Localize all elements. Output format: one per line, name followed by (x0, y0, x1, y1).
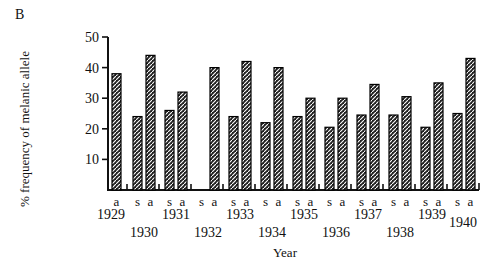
year-label-1930: 1930 (130, 225, 158, 240)
bar-category-label: a (404, 194, 410, 209)
bar-category-label: s (263, 194, 268, 209)
y-tick-label: 50 (85, 30, 99, 45)
bar-1932-a (210, 68, 219, 190)
bar-1931-a (178, 92, 187, 190)
bar-category-label: s (391, 194, 396, 209)
year-label-1935: 1935 (290, 207, 318, 222)
y-tick-label: 10 (85, 152, 99, 167)
bar-category-label: a (468, 194, 474, 209)
bar-category-label: a (212, 194, 218, 209)
bar-1935-a (306, 98, 315, 190)
year-labels: 1929193019311932193319341935193619371938… (97, 207, 477, 240)
bar-1935-s (293, 117, 302, 190)
x-axis-title: Year (273, 245, 298, 260)
year-label-1939: 1939 (418, 207, 446, 222)
bar-1929-a (112, 74, 121, 190)
bar-category-label: a (148, 194, 154, 209)
y-tick-label: 40 (85, 61, 99, 76)
bar-category-label: s (199, 194, 204, 209)
y-tick-label: 30 (85, 91, 99, 106)
bars-group (112, 55, 475, 190)
year-label-1933: 1933 (226, 207, 254, 222)
bar-1938-s (389, 115, 398, 190)
bar-1934-s (261, 123, 270, 190)
bar-1930-a (146, 55, 155, 190)
year-label-1932: 1932 (194, 225, 222, 240)
year-label-1931: 1931 (162, 207, 190, 222)
bar-1931-s (165, 110, 174, 190)
bar-category-label: s (135, 194, 140, 209)
year-label-1940: 1940 (449, 215, 477, 230)
year-label-1938: 1938 (386, 225, 414, 240)
bar-1938-a (402, 97, 411, 190)
bar-1940-a (466, 58, 475, 190)
bar-1936-s (325, 127, 334, 190)
bar-category-label: a (340, 194, 346, 209)
year-label-1936: 1936 (322, 225, 350, 240)
bar-1940-s (453, 114, 462, 191)
bar-chart: 1020304050 asasasasasasasasasasasa 19291… (0, 0, 499, 273)
year-label-1934: 1934 (258, 225, 286, 240)
bar-1937-a (370, 84, 379, 190)
year-label-1937: 1937 (354, 207, 382, 222)
year-label-1929: 1929 (97, 207, 125, 222)
bar-1930-s (133, 117, 142, 190)
bar-category-label: s (455, 194, 460, 209)
bar-category-label: s (327, 194, 332, 209)
y-axis: 1020304050 (85, 30, 108, 191)
bar-1934-a (274, 68, 283, 190)
bar-1933-a (242, 61, 251, 190)
bar-1933-s (229, 117, 238, 190)
bar-1937-s (357, 115, 366, 190)
y-axis-title: % frequency of melanic allele (17, 51, 32, 207)
bar-category-label: a (276, 194, 282, 209)
bar-1936-a (338, 98, 347, 190)
bar-1939-s (421, 127, 430, 190)
y-tick-label: 20 (85, 122, 99, 137)
bar-1939-a (434, 83, 443, 190)
